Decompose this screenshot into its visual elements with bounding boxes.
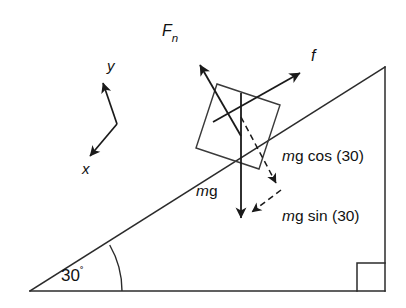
svg-text:mg cos (30): mg cos (30) bbox=[282, 147, 364, 164]
svg-text:mg: mg bbox=[196, 182, 218, 199]
block-on-incline bbox=[196, 84, 280, 169]
right-angle-marker bbox=[357, 263, 385, 291]
normal-force-vector bbox=[200, 65, 241, 136]
incline-triangle bbox=[30, 67, 385, 291]
free-body-diagram-svg: 30˚ Fn f mg bbox=[0, 0, 406, 308]
axis-y-label: y bbox=[106, 57, 116, 74]
svg-text:mg sin (30): mg sin (30) bbox=[282, 207, 360, 224]
mg-cos-component-label: mg cos (30) bbox=[282, 147, 364, 164]
weight-m-text: m bbox=[196, 182, 209, 199]
mg-sin-component-label: mg sin (30) bbox=[282, 207, 360, 224]
normal-force-subscript-text: n bbox=[172, 32, 178, 44]
triangle-hypotenuse-line bbox=[30, 67, 385, 291]
mg-cos-rest-text: g cos (30) bbox=[295, 147, 364, 164]
coordinate-axes bbox=[90, 83, 117, 156]
svg-text:Fn: Fn bbox=[162, 22, 178, 44]
axis-y-line bbox=[103, 83, 117, 124]
angle-value-text: 30 bbox=[61, 266, 80, 285]
inclined-plane-diagram: 30˚ Fn f mg bbox=[0, 0, 406, 308]
incline-angle-arc bbox=[110, 245, 122, 291]
svg-text:30˚: 30˚ bbox=[61, 265, 84, 285]
mg-sin-component-vector bbox=[252, 190, 281, 212]
axis-y-text: y bbox=[106, 57, 116, 74]
friction-force-label: f bbox=[311, 47, 317, 64]
friction-force-symbol-text: f bbox=[311, 47, 317, 64]
mg-cos-m-text: m bbox=[282, 147, 295, 164]
mg-sin-rest-text: g sin (30) bbox=[295, 207, 360, 224]
mg-cos-component-vector bbox=[241, 117, 276, 183]
weight-label: mg bbox=[196, 182, 218, 199]
mg-sin-m-text: m bbox=[282, 207, 295, 224]
weight-g-text: g bbox=[209, 182, 218, 199]
normal-force-label: Fn bbox=[162, 22, 178, 44]
friction-force-vector bbox=[213, 73, 300, 122]
degree-symbol-text: ˚ bbox=[80, 265, 84, 277]
incline-angle-label: 30˚ bbox=[61, 265, 84, 285]
axis-x-label: x bbox=[81, 160, 90, 177]
axis-x-text: x bbox=[81, 160, 90, 177]
axis-x-line bbox=[90, 124, 117, 156]
